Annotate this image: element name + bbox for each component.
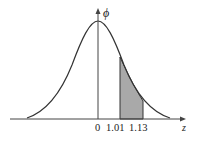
- x-axis-label: z: [181, 122, 186, 133]
- tick-label-1-13: 1.13: [129, 122, 147, 133]
- tick-label-0: 0: [95, 122, 100, 133]
- y-axis-label: ϕ: [103, 6, 109, 20]
- y-axis-arrow-icon: [96, 8, 101, 14]
- normal-curve-diagram: ϕ z 0 1.01 1.13: [0, 0, 201, 147]
- tick-label-1-01: 1.01: [106, 122, 124, 133]
- shaded-area: [120, 57, 143, 119]
- x-axis-arrow-icon: [180, 117, 186, 122]
